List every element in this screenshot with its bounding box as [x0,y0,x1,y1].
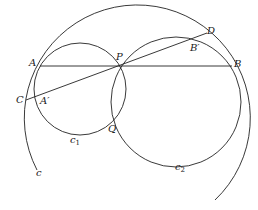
circle-c [24,5,250,200]
label-a: A [29,58,36,68]
label-p: P [116,52,123,62]
label-c2-subscript: 2 [181,166,185,174]
label-d: D [207,26,215,36]
circle-c2 [111,37,241,167]
diagram-svg [0,0,258,210]
label-circle-c2: c2 [175,162,185,174]
label-c-point: C [16,95,24,105]
label-b-prime: B′ [190,43,200,53]
geometry-diagram: A P B C A′ D B′ Q c1 c2 c [0,0,258,210]
label-b: B [234,59,241,69]
label-c1-subscript: 1 [76,139,80,147]
label-q: Q [108,124,116,134]
label-circle-c: c [36,168,42,178]
label-circle-c1: c1 [70,135,80,147]
label-a-prime: A′ [40,96,50,106]
